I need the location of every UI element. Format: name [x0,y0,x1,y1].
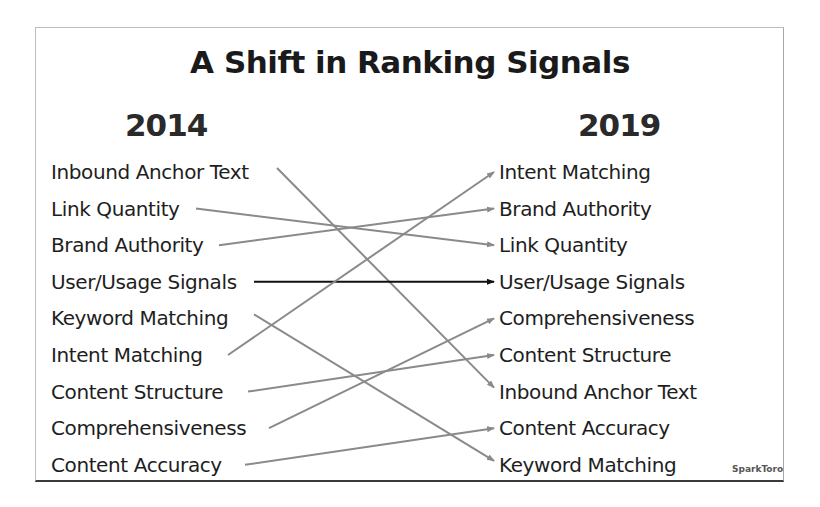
connection-arrows [0,0,820,507]
connection-arrow [245,428,494,465]
sparktoro-logo: SparkToro [732,464,783,474]
connection-arrow [277,168,494,388]
connection-arrow [228,172,494,355]
connection-arrow [269,318,494,428]
